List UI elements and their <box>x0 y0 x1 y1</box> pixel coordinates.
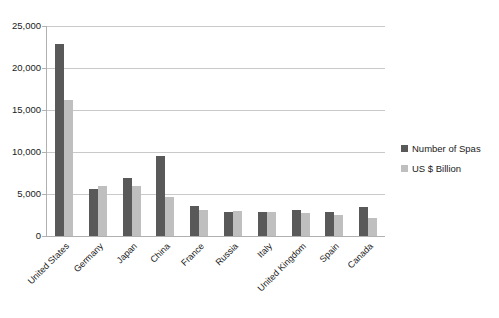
x-axis-tick-label: Spain <box>193 241 341 318</box>
gridline <box>47 236 385 237</box>
bar-group <box>89 26 107 236</box>
bar[interactable] <box>233 211 242 236</box>
y-axis-tick-label: 20,000 <box>1 63 41 73</box>
bar-chart: 25,00020,00015,00010,0005,0000 United St… <box>0 0 499 318</box>
x-axis-tick-label: Russia <box>91 241 239 318</box>
y-axis-labels: 25,00020,00015,00010,0005,0000 <box>0 0 41 318</box>
y-axis-tick-label: 5,000 <box>1 189 41 199</box>
bar[interactable] <box>132 186 141 236</box>
y-axis-tick <box>42 152 47 153</box>
bar[interactable] <box>123 178 132 236</box>
x-axis-tick-label: United Kingdom <box>159 241 307 318</box>
y-axis-tick <box>42 68 47 69</box>
bar[interactable] <box>334 215 343 236</box>
chart-legend: Number of Spas US $ Billion <box>401 143 496 183</box>
bar-group <box>123 26 141 236</box>
x-axis-tick-label: Canada <box>227 241 375 318</box>
bar[interactable] <box>190 206 199 236</box>
legend-label: Number of Spas <box>412 143 481 154</box>
bar[interactable] <box>199 210 208 236</box>
bar-group <box>156 26 174 236</box>
bar[interactable] <box>325 212 334 236</box>
bar[interactable] <box>301 213 310 236</box>
bar[interactable] <box>258 212 267 236</box>
y-axis-tick <box>42 110 47 111</box>
legend-item[interactable]: US $ Billion <box>401 163 496 174</box>
x-axis-tick-label: China <box>24 241 172 318</box>
bar[interactable] <box>165 197 174 236</box>
bar[interactable] <box>359 207 368 236</box>
y-axis-tick-label: 10,000 <box>1 147 41 157</box>
bar[interactable] <box>267 212 276 236</box>
bar[interactable] <box>156 156 165 236</box>
bar-group <box>190 26 208 236</box>
bar[interactable] <box>55 44 64 236</box>
legend-swatch-number-of-spas <box>401 145 408 152</box>
y-axis-tick <box>42 236 47 237</box>
bar-group <box>359 26 377 236</box>
y-axis-tick <box>42 194 47 195</box>
bar-group <box>292 26 310 236</box>
x-axis-tick-label: France <box>58 241 206 318</box>
bar[interactable] <box>368 218 377 236</box>
y-axis-tick-label: 15,000 <box>1 105 41 115</box>
y-axis-tick <box>42 26 47 27</box>
y-axis-tick-label: 25,000 <box>1 21 41 31</box>
bar[interactable] <box>98 186 107 236</box>
bar-group <box>325 26 343 236</box>
bar-group <box>224 26 242 236</box>
bar[interactable] <box>224 212 233 236</box>
bar[interactable] <box>89 189 98 236</box>
bar[interactable] <box>64 100 73 236</box>
legend-label: US $ Billion <box>412 163 461 174</box>
legend-item[interactable]: Number of Spas <box>401 143 496 154</box>
bar-group <box>258 26 276 236</box>
legend-swatch-us-dollar-billion <box>401 165 408 172</box>
bar[interactable] <box>292 210 301 236</box>
bar-group <box>55 26 73 236</box>
y-axis-tick-label: 0 <box>1 231 41 241</box>
x-axis-tick-label: Italy <box>125 241 273 318</box>
plot-area <box>47 26 385 236</box>
